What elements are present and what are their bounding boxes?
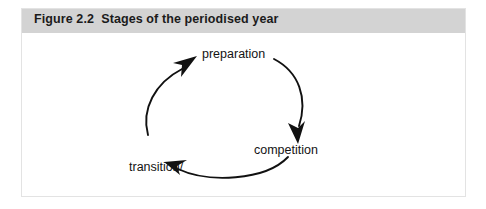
arrow-preparation-to-competition: [274, 59, 305, 144]
stage-label-preparation: preparation: [202, 46, 265, 63]
arc-preparation-to-competition: [274, 59, 302, 126]
arrowhead-competition: [288, 121, 305, 144]
figure-container: Figure 2.2 Stages of the periodised year…: [21, 8, 466, 197]
arrowhead-preparation: [173, 56, 197, 77]
arrow-transition-to-preparation: [146, 56, 197, 135]
stage-label-transition-line1: transition/: [129, 159, 183, 176]
cycle-diagram: preparation competition transition/ reco…: [22, 33, 465, 197]
stage-label-competition: competition: [254, 142, 318, 159]
figure-caption: Figure 2.2 Stages of the periodised year: [34, 12, 278, 26]
stage-label-transition-recovery: transition/ recovery: [129, 125, 183, 209]
figure-header-bar: Figure 2.2 Stages of the periodised year: [22, 9, 465, 33]
arc-competition-to-transition: [178, 157, 288, 178]
